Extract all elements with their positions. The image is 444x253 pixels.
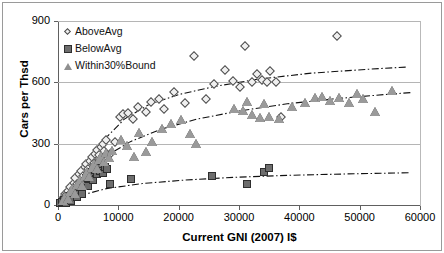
- BelowAvg-trend: [79, 173, 411, 196]
- scatter-chart: Cars per Thsd Current GNI (2007) I$ 0300…: [0, 0, 444, 253]
- x-tick-mark: [420, 206, 421, 210]
- Within30%Bound-trend: [85, 93, 411, 179]
- x-tick-label: 10000: [88, 212, 148, 223]
- x-axis-title: Current GNI (2007) I$: [58, 231, 421, 243]
- y-tick-label: 600: [8, 76, 50, 87]
- triangle-marker-icon: [62, 60, 74, 72]
- x-tick-label: 40000: [269, 212, 329, 223]
- legend-item-label: BelowAvg: [75, 43, 122, 54]
- x-tick-mark: [179, 206, 180, 210]
- square-glyph: [64, 45, 72, 53]
- x-tick-label: 50000: [330, 212, 390, 223]
- x-tick-label: 60000: [390, 212, 444, 223]
- x-tick-label: 30000: [209, 212, 269, 223]
- y-tick-label: 0: [8, 199, 50, 210]
- plot-right-border: [420, 21, 421, 206]
- legend-item-label: Within30%Bound: [75, 60, 156, 71]
- y-tick-label: 900: [8, 15, 50, 26]
- triangle-glyph: [64, 63, 72, 70]
- AboveAvg-trend: [93, 67, 408, 164]
- square-marker-icon: [62, 43, 74, 55]
- x-tick-mark: [58, 206, 59, 210]
- x-tick-label: 20000: [149, 212, 209, 223]
- x-tick-mark: [360, 206, 361, 210]
- x-tick-mark: [239, 206, 240, 210]
- legend-item-triangle[interactable]: Within30%Bound: [62, 57, 187, 74]
- diamond-glyph: [64, 27, 71, 34]
- legend-item-label: AboveAvg: [75, 26, 123, 37]
- x-tick-label: 0: [28, 212, 88, 223]
- legend-item-square[interactable]: BelowAvg: [62, 40, 187, 57]
- x-tick-mark: [118, 206, 119, 210]
- chart-legend: AboveAvgBelowAvgWithin30%Bound: [62, 23, 187, 74]
- y-tick-label: 300: [8, 138, 50, 149]
- x-tick-mark: [299, 206, 300, 210]
- diamond-marker-icon: [62, 26, 74, 38]
- legend-item-diamond[interactable]: AboveAvg: [62, 23, 187, 40]
